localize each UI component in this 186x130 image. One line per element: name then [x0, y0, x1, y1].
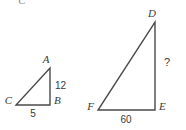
- small-triangle-group: A B C 12 5: [5, 53, 67, 119]
- large-triangle-unknown-measure: ?: [164, 56, 170, 68]
- vertex-label-d: D: [147, 7, 156, 19]
- vertex-label-a: A: [42, 53, 50, 65]
- small-triangle-outline: [16, 68, 50, 105]
- clipped-top-glyph: C: [18, 0, 26, 6]
- small-triangle-vertical-measure: 12: [55, 80, 67, 91]
- vertex-label-c: C: [5, 94, 13, 106]
- large-triangle-horizontal-measure: 60: [120, 114, 132, 125]
- vertex-label-b: B: [54, 94, 61, 106]
- large-triangle-outline: [98, 22, 155, 110]
- large-triangle-group: D E F ? 60: [86, 7, 170, 125]
- vertex-label-f: F: [86, 100, 94, 112]
- vertex-label-e: E: [158, 100, 166, 112]
- geometry-figure-canvas: C A B C 12 5 D E F ? 60: [0, 0, 186, 130]
- similar-triangles-diagram: C A B C 12 5 D E F ? 60: [0, 0, 186, 130]
- small-triangle-horizontal-measure: 5: [30, 108, 36, 119]
